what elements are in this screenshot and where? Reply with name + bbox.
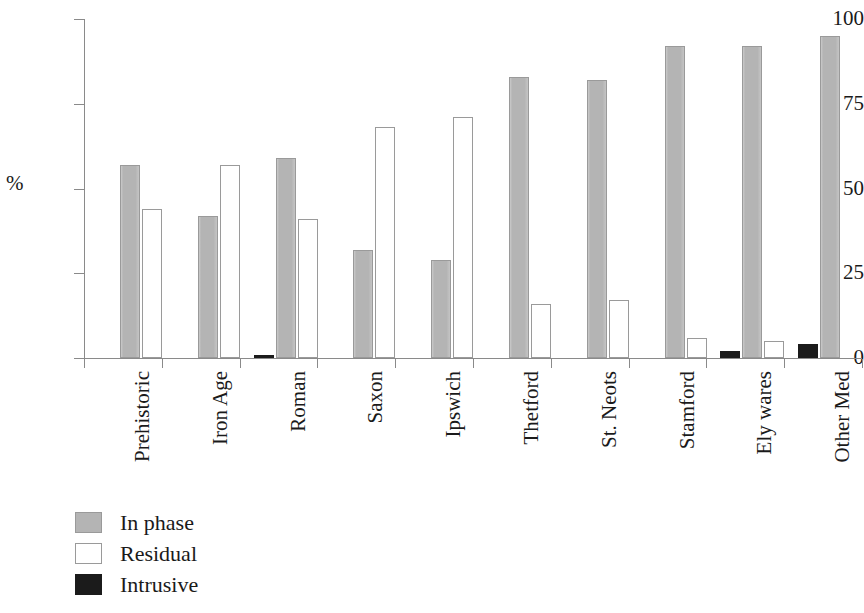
x-axis-group-separator [162, 359, 163, 368]
bar-residual [375, 127, 395, 358]
bar-in-phase [509, 77, 529, 358]
x-axis-label-text: Thetford [521, 371, 542, 444]
x-axis-label-text: Saxon [365, 371, 386, 424]
x-axis-label-text: Prehistoric [132, 371, 153, 462]
x-axis-group-separator [706, 359, 707, 368]
legend-label: Residual [120, 539, 197, 569]
bar-residual [220, 165, 240, 358]
bar-group [162, 19, 240, 358]
x-axis-label-saxon: Saxon [365, 371, 386, 424]
legend-label: In phase [120, 508, 194, 538]
x-axis-group-separator [629, 359, 630, 368]
bar-intrusive [254, 355, 274, 358]
plot-area [84, 19, 862, 358]
bar-in-phase [665, 46, 685, 358]
x-axis-label-ely-wares: Ely wares [754, 371, 775, 454]
bar-residual [298, 219, 318, 358]
bar-intrusive [798, 344, 818, 358]
x-axis-label-text: Other Med [832, 371, 853, 463]
bar-residual [142, 209, 162, 358]
y-axis-title: % [6, 173, 24, 194]
x-axis-group-separator [862, 359, 863, 368]
bar-in-phase [276, 158, 296, 358]
x-axis-label-text: Ipswich [443, 371, 464, 438]
x-axis-label-text: St. Neots [599, 371, 620, 448]
bar-in-phase [198, 216, 218, 358]
x-axis-group-separator [317, 359, 318, 368]
bar-residual [764, 341, 784, 358]
bar-group [240, 19, 318, 358]
bar-residual [531, 304, 551, 358]
x-axis-group-separator [551, 359, 552, 368]
bar-group [706, 19, 784, 358]
bar-in-phase [742, 46, 762, 358]
bar-group [551, 19, 629, 358]
bar-group [395, 19, 473, 358]
x-axis-group-separator [84, 359, 85, 368]
x-axis-group-separator [240, 359, 241, 368]
x-axis-group-separator [473, 359, 474, 368]
x-axis-label-text: Roman [288, 371, 309, 432]
x-axis-label-ipswich: Ipswich [443, 371, 464, 438]
legend-swatch-residual [75, 543, 102, 564]
x-axis-label-st-neots: St. Neots [599, 371, 620, 448]
x-axis-label-text: Iron Age [210, 371, 231, 445]
legend-swatch-intrusive [75, 574, 102, 595]
x-axis-label-text: Ely wares [754, 371, 775, 454]
bar-chart: % 0255075100 PrehistoricIron AgeRomanSax… [0, 0, 864, 613]
bar-group [629, 19, 707, 358]
x-axis-label-thetford: Thetford [521, 371, 542, 444]
bar-in-phase [820, 36, 840, 358]
x-axis-label-iron-age: Iron Age [210, 371, 231, 445]
bar-in-phase [587, 80, 607, 358]
bar-group [473, 19, 551, 358]
x-axis-label-text: Stamford [677, 371, 698, 449]
bar-residual [609, 300, 629, 358]
x-axis-label-stamford: Stamford [677, 371, 698, 449]
x-axis-group-separator [784, 359, 785, 368]
bar-residual [687, 338, 707, 358]
legend-swatch-inphase [75, 512, 102, 533]
x-axis-group-separator [395, 359, 396, 368]
bar-in-phase [120, 165, 140, 358]
bar-in-phase [431, 260, 451, 358]
bar-group [784, 19, 862, 358]
bar-group [317, 19, 395, 358]
x-axis-label-roman: Roman [288, 371, 309, 432]
bar-group [84, 19, 162, 358]
bar-in-phase [353, 250, 373, 358]
bar-residual [453, 117, 473, 358]
bar-intrusive [720, 351, 740, 358]
x-axis-label-prehistoric: Prehistoric [132, 371, 153, 462]
legend-label: Intrusive [120, 570, 198, 600]
x-axis-label-other-med: Other Med [832, 371, 853, 463]
